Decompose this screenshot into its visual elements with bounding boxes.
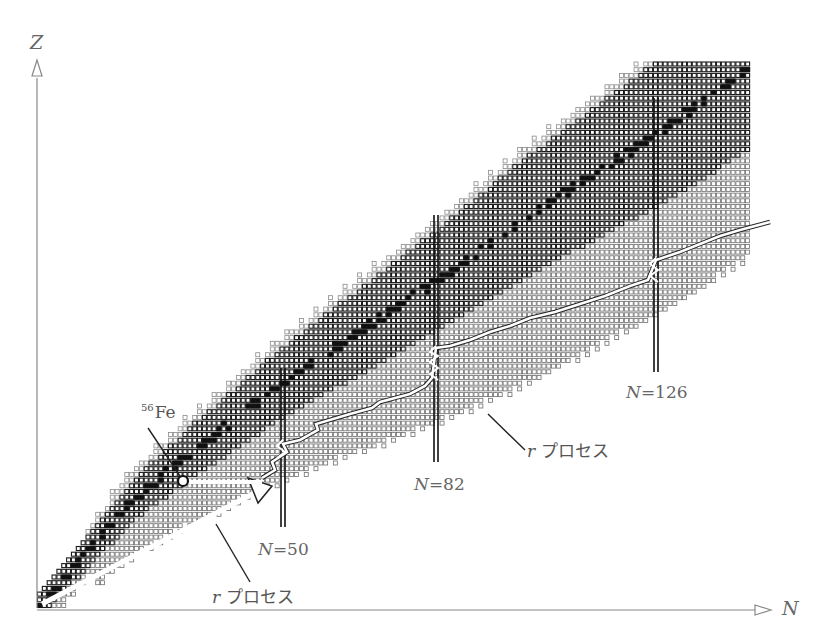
z-axis-arrow-icon <box>32 60 42 76</box>
n-axis-arrow-icon <box>755 605 771 615</box>
nuclide-chart <box>0 0 825 644</box>
n-axis-label: N <box>782 599 799 618</box>
fe56-marker <box>178 476 188 486</box>
fe56-symbol: Fe <box>155 402 176 422</box>
magic-n126-label: N=126 <box>626 384 688 401</box>
magic-n82-label: N=82 <box>414 476 465 493</box>
fe56-label: 56Fe <box>141 403 176 421</box>
fe56-mass-number: 56 <box>141 402 154 413</box>
magic-n50-label: N=50 <box>258 541 309 558</box>
r-process-label-upper: rプロセス <box>527 443 609 460</box>
r-process-label-lower: rプロセス <box>212 589 294 606</box>
z-axis-label: Z <box>30 33 43 52</box>
